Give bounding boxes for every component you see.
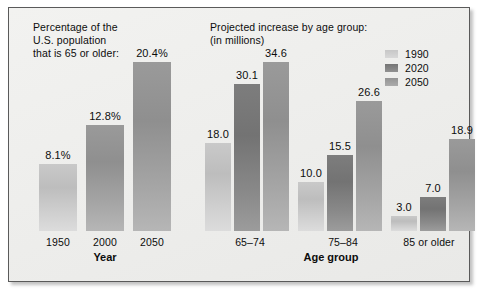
bar-85-plus-2020[interactable] [420, 197, 446, 231]
x-tick-75-84: 75–84 [298, 236, 388, 248]
chart-panel-percentage: Percentage of the U.S. population that i… [9, 8, 191, 281]
chart-figure: Percentage of the U.S. population that i… [8, 7, 470, 282]
x-tick-65-74: 65–74 [205, 236, 295, 248]
bar-value-75-84-2020: 15.5 [329, 140, 351, 152]
bar-75-84-2050[interactable] [356, 101, 382, 231]
bar-group-75-84-2020: 15.5 [327, 140, 353, 231]
bar-65-74-2050[interactable] [263, 62, 289, 231]
bar-value-85-plus-1990: 3.0 [396, 201, 412, 213]
bar-group-75-84-2050: 26.6 [356, 86, 382, 231]
bar-group-65-74-2050: 34.6 [263, 47, 289, 231]
x-tick-85-plus: 85 or older [381, 236, 477, 248]
bar-value-2050: 20.4% [136, 47, 168, 59]
bar-group-2000: 12.8% [86, 110, 124, 231]
bar-2050[interactable] [133, 62, 171, 231]
bar-value-85-plus-2020: 7.0 [425, 182, 441, 194]
bar-group-65-74-2020: 30.1 [234, 69, 260, 231]
bar-value-65-74-2020: 30.1 [236, 69, 258, 81]
bar-value-2000: 12.8% [89, 110, 121, 122]
bar-value-65-74-2050: 34.6 [265, 47, 287, 59]
bar-85-plus-1990[interactable] [391, 216, 417, 231]
right-x-axis-title: Age group [251, 251, 411, 263]
bar-group-85-plus-2020: 7.0 [420, 182, 446, 231]
bar-65-74-1990[interactable] [205, 143, 231, 231]
bar-group-2050: 20.4% [133, 47, 171, 231]
bar-group-75-84-1990: 10.0 [298, 167, 324, 231]
bar-group-1950: 8.1% [39, 149, 77, 231]
bar-group-85-plus-1990: 3.0 [391, 201, 417, 231]
bar-75-84-1990[interactable] [298, 182, 324, 231]
x-tick-1950: 1950 [39, 236, 77, 248]
bar-value-85-plus-2050: 18.9 [451, 124, 473, 136]
bar-value-1950: 8.1% [45, 149, 70, 161]
x-tick-2050: 2050 [133, 236, 171, 248]
bar-value-75-84-1990: 10.0 [300, 167, 322, 179]
bar-1950[interactable] [39, 164, 77, 231]
bar-65-74-2020[interactable] [234, 84, 260, 231]
bar-group-85-plus-2050: 18.9 [449, 124, 475, 231]
left-plot-area: 8.1% 12.8% 20.4% [35, 31, 175, 231]
bar-value-65-74-1990: 18.0 [207, 128, 229, 140]
bar-2000[interactable] [86, 125, 124, 231]
right-plot-area: 18.0 30.1 34.6 10.0 15.5 26.6 [199, 31, 465, 231]
bar-85-plus-2050[interactable] [449, 139, 475, 231]
bar-75-84-2020[interactable] [327, 155, 353, 231]
bar-value-75-84-2050: 26.6 [358, 86, 380, 98]
bar-group-65-74-1990: 18.0 [205, 128, 231, 231]
x-tick-2000: 2000 [86, 236, 124, 248]
left-x-axis-title: Year [39, 251, 171, 263]
chart-panel-projected-increase: Projected increase by age group: (in mil… [191, 8, 469, 281]
